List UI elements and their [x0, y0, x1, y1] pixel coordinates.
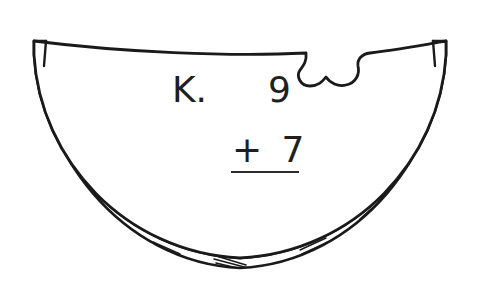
- addend-bottom-with-operator: + 7: [232, 132, 309, 168]
- sum-underline-rule: [231, 171, 299, 173]
- problem-label: K.: [172, 72, 207, 108]
- addend-top: 9: [268, 72, 291, 108]
- worksheet-canvas: K. 9 + 7: [0, 0, 481, 283]
